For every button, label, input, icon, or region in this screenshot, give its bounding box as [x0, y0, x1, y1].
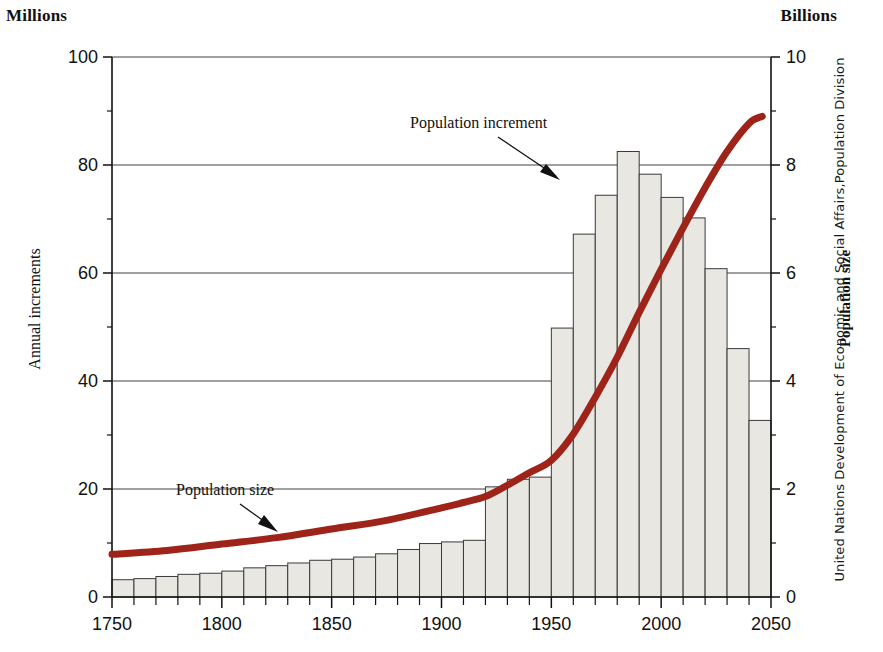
y2-tick-label: 10 [786, 47, 806, 67]
y-tick-label: 20 [78, 479, 98, 499]
bar [244, 568, 266, 597]
bar [463, 540, 485, 597]
y2-tick-label: 6 [786, 263, 796, 283]
bar [639, 174, 661, 597]
x-tick-label: 1800 [202, 614, 242, 634]
bar [112, 580, 134, 597]
x-tick-label: 1750 [92, 614, 132, 634]
y-tick-label: 80 [78, 155, 98, 175]
bar [617, 152, 639, 598]
bar [222, 571, 244, 597]
y2-tick-label: 4 [786, 371, 796, 391]
population-chart: Millions Billions Annual increments Popu… [0, 0, 883, 652]
x-tick-label: 2000 [641, 614, 681, 634]
x-tick-label: 1900 [421, 614, 461, 634]
x-tick-label: 1950 [531, 614, 571, 634]
bar [442, 542, 464, 597]
bar [529, 477, 551, 597]
bar [551, 328, 573, 597]
y-tick-label: 100 [68, 47, 98, 67]
y-tick-label: 60 [78, 263, 98, 283]
y2-tick-label: 2 [786, 479, 796, 499]
plot-area: 0204060801000246810175018001850190019502… [0, 0, 883, 652]
bar [485, 487, 507, 597]
y2-tick-label: 8 [786, 155, 796, 175]
bar [200, 573, 222, 597]
annotation-increment-arrowhead [540, 164, 560, 180]
annotation-size-arrowhead [258, 515, 278, 532]
y-tick-label: 40 [78, 371, 98, 391]
bar [376, 554, 398, 597]
bar [727, 349, 749, 597]
bar [310, 560, 332, 597]
y2-tick-label: 0 [786, 587, 796, 607]
bar [156, 576, 178, 597]
x-tick-label: 1850 [312, 614, 352, 634]
annotation-population-increment: Population increment [410, 114, 560, 180]
bar [288, 563, 310, 597]
bar [705, 269, 727, 597]
bar [683, 218, 705, 597]
bar [178, 574, 200, 597]
annotation-size-label: Population size [176, 481, 274, 499]
bar [420, 544, 442, 597]
bar-series [112, 152, 771, 598]
bar [134, 579, 156, 597]
bar [354, 557, 376, 597]
annotation-population-size: Population size [176, 481, 278, 532]
bar [332, 559, 354, 597]
bar [507, 479, 529, 597]
y-tick-label: 0 [88, 587, 98, 607]
annotation-increment-label: Population increment [410, 114, 548, 132]
x-tick-label: 2050 [751, 614, 791, 634]
bar [398, 549, 420, 597]
bar [266, 566, 288, 597]
bar [749, 420, 771, 597]
